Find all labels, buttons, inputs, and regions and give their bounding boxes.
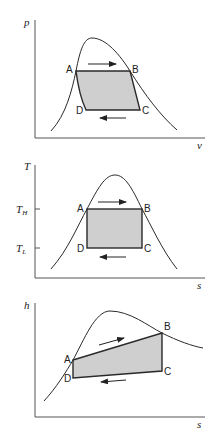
ts-point-A: A [77, 203, 84, 214]
pv-diagram: p v A B C D [23, 16, 205, 151]
pv-point-D: D [76, 105, 83, 116]
hs-point-B: B [164, 321, 171, 332]
ts-point-C: C [144, 243, 151, 254]
hs-arrow-up-right [99, 338, 124, 345]
hs-diagram: h s A B C D [24, 299, 205, 430]
pv-point-A: A [66, 64, 73, 75]
hs-y-label: h [24, 299, 30, 311]
pv-y-label: p [23, 16, 30, 28]
pv-point-C: C [142, 105, 149, 116]
ts-cycle-area [87, 209, 142, 248]
pv-point-B: B [132, 64, 139, 75]
ts-point-B: B [144, 203, 151, 214]
ts-diagram: T s TH TL A B C D [16, 160, 205, 291]
hs-x-label: s [197, 418, 201, 430]
hs-arrow-left [101, 380, 126, 382]
thermo-diagrams: p v A B C D T s TH TL A B C D h s [0, 0, 217, 436]
hs-point-C: C [164, 366, 171, 377]
ts-point-D: D [77, 243, 84, 254]
ts-label-TH: TH [16, 203, 28, 217]
ts-label-TL: TL [16, 242, 26, 256]
pv-cycle-area [76, 71, 140, 110]
ts-x-label: s [197, 279, 201, 291]
hs-point-D: D [64, 373, 71, 384]
pv-x-label: v [197, 139, 202, 151]
ts-y-label: T [24, 160, 31, 172]
hs-point-A: A [64, 354, 71, 365]
